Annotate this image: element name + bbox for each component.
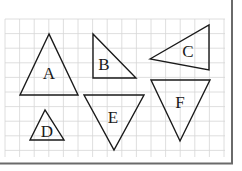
triangle-label-d: D — [41, 122, 53, 141]
grid — [5, 19, 225, 157]
triangle-label-f: F — [175, 93, 184, 112]
triangle-label-c: C — [182, 42, 193, 61]
triangle-label-a: A — [43, 64, 56, 83]
triangle-diagram: ABCDEF — [0, 0, 242, 171]
triangle-c — [150, 25, 209, 70]
triangle-label-b: B — [98, 55, 109, 74]
triangle-label-e: E — [108, 108, 118, 127]
